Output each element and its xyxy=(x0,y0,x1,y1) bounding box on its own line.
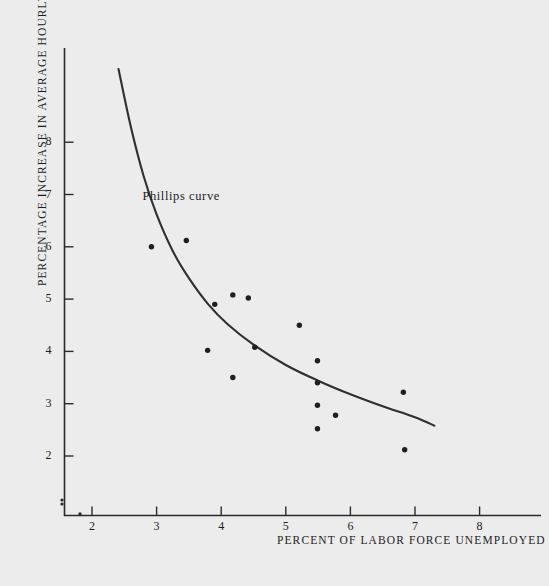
data-point xyxy=(184,238,189,243)
data-point xyxy=(315,403,320,408)
phillips-curve-label: Phillips curve xyxy=(142,189,220,204)
data-point xyxy=(315,380,320,385)
data-point xyxy=(315,358,320,363)
y-tick-label: 4 xyxy=(39,343,59,358)
y-axis-title: PERCENTAGE INCREASE IN AVERAGE HOURLY EA… xyxy=(36,86,48,286)
data-point xyxy=(402,447,407,452)
x-tick-label: 3 xyxy=(147,519,167,534)
y-tick-label: 5 xyxy=(39,291,59,306)
x-tick-label: 8 xyxy=(470,519,490,534)
chart-figure: 23456782345678 Phillips curve PERCENT OF… xyxy=(0,0,549,586)
data-point xyxy=(230,292,235,297)
data-point xyxy=(205,348,210,353)
scatter-points xyxy=(149,238,408,453)
x-tick-label: 6 xyxy=(340,519,360,534)
y-axis-ticks xyxy=(65,142,74,456)
x-axis-ticks xyxy=(92,507,480,516)
y-tick-label: 2 xyxy=(39,448,59,463)
axis-lines xyxy=(64,48,541,516)
origin-marker xyxy=(60,498,81,515)
x-tick-label: 2 xyxy=(82,519,102,534)
data-point xyxy=(252,345,257,350)
y-tick-label: 3 xyxy=(39,396,59,411)
data-point xyxy=(297,323,302,328)
data-point xyxy=(212,302,217,307)
data-point xyxy=(149,244,154,249)
x-tick-label: 5 xyxy=(276,519,296,534)
data-point xyxy=(333,413,338,418)
x-tick-label: 7 xyxy=(405,519,425,534)
phillips-curve-line xyxy=(118,69,434,426)
data-point xyxy=(230,375,235,380)
x-axis-title: PERCENT OF LABOR FORCE UNEMPLOYED xyxy=(277,534,546,546)
data-point xyxy=(315,426,320,431)
phillips-curve-plot xyxy=(0,0,549,586)
x-tick-label: 4 xyxy=(211,519,231,534)
data-point xyxy=(246,295,251,300)
data-point xyxy=(401,389,406,394)
